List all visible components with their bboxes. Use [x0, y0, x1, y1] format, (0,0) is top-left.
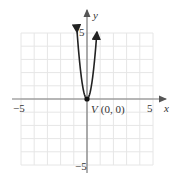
y-axis-label: y [92, 9, 98, 21]
graph: y x −5 5 5 −5 V(0, 0) [0, 0, 181, 178]
vertex-label: V(0, 0) [91, 103, 125, 116]
vertex-letter: V [91, 103, 99, 115]
x-max-label: 5 [147, 102, 153, 114]
y-max-label: 5 [79, 26, 85, 38]
x-axis-label: x [163, 102, 169, 114]
vertex-point [84, 96, 89, 101]
y-min-label: −5 [75, 160, 87, 172]
x-min-label: −5 [13, 102, 25, 114]
vertex-coords: (0, 0) [101, 103, 125, 116]
